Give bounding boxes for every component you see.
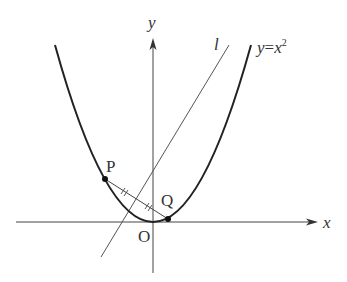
point-p-dot [102,176,108,182]
y-axis-label: y [148,14,156,31]
point-q-dot [165,216,171,222]
point-p-label: P [106,158,115,175]
parabola-diagram [0,0,347,282]
origin-label: O [138,228,150,245]
x-axis-label: x [323,214,331,231]
point-q-label: Q [161,192,173,209]
line-l-label: l [214,36,219,53]
line-l [101,45,229,257]
segment-pq [105,179,168,219]
curve-equation-label: y=x2 [257,38,287,56]
